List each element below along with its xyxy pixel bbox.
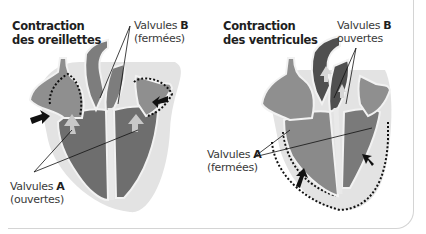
label-valves-b-line: Valvules B [337,19,391,32]
label-valves-a-open: Valvules A (ouvertes) [10,180,65,206]
label-valves-a-line: Valvules A [10,180,65,193]
label-valves-b-open: Valvules B ouvertes [337,19,391,45]
panel-title-ventricular: Contraction des ventricules [223,19,318,47]
heart-ventricular-contraction [254,36,391,210]
valve-letter-a: A [56,180,64,193]
label-valves-a-closed: Valvules A (fermées) [207,148,262,174]
valve-letter-b: B [383,19,391,32]
label-valves-a-state: (fermées) [207,161,262,174]
title-line-2: des ventricules [223,33,318,47]
label-valves-b-state: (fermées) [134,32,188,45]
valve-letter-a: A [253,148,261,161]
valve-letter-b: B [180,19,188,32]
right-atrium [262,58,314,120]
title-line-1: Contraction [12,19,101,33]
title-line-1: Contraction [223,19,318,33]
label-valves-a-state: (ouvertes) [10,193,65,206]
label-valves-b-line: Valvules B [134,19,188,32]
label-valves-a-line: Valvules A [207,148,262,161]
panel-title-atrial: Contraction des oreillettes [12,19,101,47]
septum [110,108,112,200]
label-valves-b-state: ouvertes [337,32,391,45]
label-valves-b-closed: Valvules B (fermées) [134,19,188,45]
title-line-2: des oreillettes [12,33,101,47]
